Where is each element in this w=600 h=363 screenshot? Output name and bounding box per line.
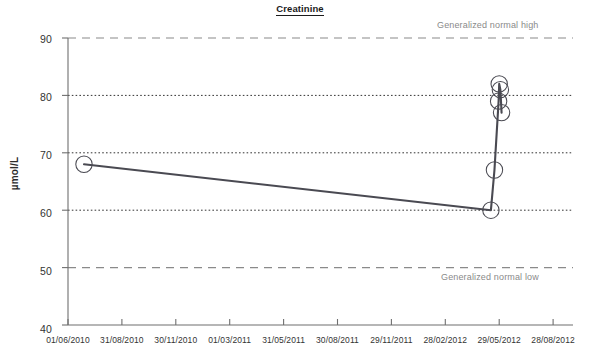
series-marker-group [76,76,510,219]
x-tick-group [68,319,553,325]
series-line-group [84,84,502,210]
gridline-group [68,38,573,268]
series-polyline [84,84,502,210]
axis-group [68,38,573,325]
chart-canvas [0,0,600,363]
y-tick-group [62,38,68,325]
creatinine-chart-page: Creatinine Generalized normal high Gener… [0,0,600,363]
